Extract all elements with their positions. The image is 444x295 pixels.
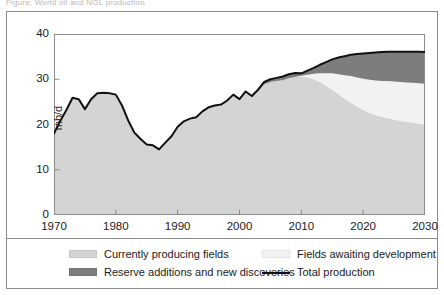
x-tick-label: 2020	[350, 221, 376, 233]
legend-item-currently-producing-fields: Currently producing fields	[69, 245, 295, 263]
y-tick-label: 20	[36, 119, 49, 131]
figure-caption-partial: Figure: World oil and NGL production	[6, 0, 306, 9]
x-tick-label: 1970	[41, 221, 67, 233]
legend-label-fields-awaiting-development: Fields awaiting development	[297, 248, 436, 260]
legend-swatch-reserve-additions	[69, 268, 97, 276]
x-tick-label: 1990	[165, 221, 191, 233]
plot-area: mb/d 010203040 1970198019902000201020202…	[54, 34, 425, 215]
legend-item-fields-awaiting-development: Fields awaiting development	[262, 245, 436, 263]
x-tick-label: 2030	[412, 221, 438, 233]
chart-legend: Currently producing fields Reserve addit…	[6, 238, 438, 289]
legend-swatch-currently-producing-fields	[69, 250, 97, 258]
legend-label-total-production: Total production	[297, 266, 375, 278]
y-tick-label: 40	[36, 28, 49, 40]
x-tick-label: 1980	[103, 221, 129, 233]
y-axis-label: mb/d	[52, 88, 64, 148]
y-tick-label: 10	[36, 164, 49, 176]
legend-swatch-total-production	[262, 272, 290, 274]
legend-label-currently-producing-fields: Currently producing fields	[104, 248, 229, 260]
x-tick-label: 2000	[227, 221, 253, 233]
x-tick-label: 2010	[289, 221, 315, 233]
area-bands	[54, 52, 425, 215]
legend-item-reserve-additions: Reserve additions and new discoveries	[69, 263, 295, 281]
legend-column-left: Currently producing fields Reserve addit…	[69, 245, 295, 281]
stacked-area-chart	[54, 34, 425, 215]
legend-swatch-fields-awaiting-development	[262, 250, 290, 258]
legend-column-right: Fields awaiting development Total produc…	[262, 245, 436, 281]
legend-item-total-production: Total production	[262, 263, 436, 281]
legend-divider	[6, 238, 438, 239]
figure-container: Figure: World oil and NGL production mb/…	[0, 0, 444, 295]
y-tick-label: 30	[36, 74, 49, 86]
